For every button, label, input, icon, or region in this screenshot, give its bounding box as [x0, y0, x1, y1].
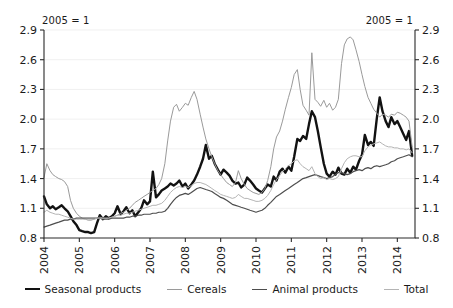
y-axis-tick-label-right: 2.6 — [422, 54, 440, 67]
legend-label: Total — [404, 283, 429, 295]
y-axis-tick-label-right: 2.0 — [422, 113, 440, 126]
x-axis-tick-label: 2007 — [144, 246, 157, 274]
series-line-cereals — [44, 37, 412, 220]
legend-item[interactable]: Animal products — [252, 283, 358, 295]
x-axis-tick-label: 2008 — [179, 246, 192, 274]
y-axis-tick-label: 2.6 — [20, 54, 38, 67]
gridlines — [44, 30, 415, 208]
y-axis-tick-label: 1.1 — [20, 202, 38, 215]
x-axis-tick-label: 2011 — [285, 246, 298, 274]
legend-item[interactable]: Seasonal products — [25, 283, 142, 295]
x-axis-ticks: 2004200520062007200820092010201120122013… — [38, 238, 404, 274]
series-lines — [44, 37, 412, 233]
x-axis-tick-label: 2004 — [38, 246, 51, 274]
y-axis-tick-label-right: 0.8 — [422, 232, 440, 245]
x-axis-tick-label: 2014 — [391, 246, 404, 274]
x-axis-tick-label: 2010 — [250, 246, 263, 274]
y-axis-left-ticks: 0.81.11.41.72.02.32.62.9 — [20, 24, 45, 245]
legend-label: Seasonal products — [45, 283, 142, 295]
y-axis-tick-label: 0.8 — [20, 232, 38, 245]
legend-label: Animal products — [272, 283, 358, 295]
x-axis-tick-label: 2006 — [109, 246, 122, 274]
legend-item[interactable]: Total — [384, 283, 429, 295]
x-axis-tick-label: 2012 — [321, 246, 334, 274]
y-axis-tick-label-right: 1.7 — [422, 143, 440, 156]
series-line-seasonal-products — [44, 97, 412, 233]
y-axis-tick-label-right: 1.4 — [422, 173, 440, 186]
y-axis-tick-label: 1.7 — [20, 143, 38, 156]
legend-label: Cereals — [187, 283, 226, 295]
legend-swatch-line-icon — [384, 289, 399, 290]
legend-swatch-line-icon — [25, 288, 40, 290]
x-axis-tick-label: 2005 — [73, 246, 86, 274]
y-axis-tick-label: 2.3 — [20, 83, 38, 96]
series-line-total — [44, 142, 412, 219]
y-axis-tick-label-right: 1.1 — [422, 202, 440, 215]
y-axis-tick-label-right: 2.9 — [422, 24, 440, 37]
y-axis-tick-label: 1.4 — [20, 173, 38, 186]
price-index-line-chart: 2005 = 1 2005 = 1 0.81.11.41.72.02.32.62… — [0, 0, 453, 308]
chart-legend: Seasonal productsCerealsAnimal productsT… — [0, 283, 453, 295]
y-axis-tick-label: 2.9 — [20, 24, 38, 37]
legend-swatch-line-icon — [167, 289, 182, 290]
x-axis-tick-label: 2013 — [356, 246, 369, 274]
legend-item[interactable]: Cereals — [167, 283, 226, 295]
plot-area: 0.81.11.41.72.02.32.62.9 0.81.11.41.72.0… — [0, 0, 453, 308]
y-axis-tick-label: 2.0 — [20, 113, 38, 126]
y-axis-tick-label-right: 2.3 — [422, 83, 440, 96]
x-axis-tick-label: 2009 — [215, 246, 228, 274]
legend-swatch-line-icon — [252, 289, 267, 290]
y-axis-right-ticks: 0.81.11.41.72.02.32.62.9 — [415, 24, 440, 245]
